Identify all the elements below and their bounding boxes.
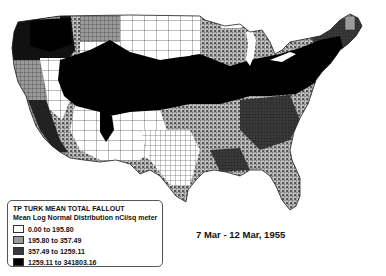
date-range-label: 7 Mar - 12 Mar, 1955: [196, 229, 285, 240]
legend-label: 0.00 to 195.80: [28, 226, 74, 233]
legend-label: 357.49 to 1259.11: [28, 248, 85, 255]
legend-label: 195.80 to 357.49: [28, 237, 81, 244]
legend-swatch: [13, 236, 24, 244]
legend-label: 1259.11 to 341803.16: [28, 259, 97, 266]
legend-item: 0.00 to 195.80: [13, 224, 157, 234]
lake-superior: [220, 18, 256, 28]
legend-swatch: [13, 247, 24, 255]
legend-title: TP TURK MEAN TOTAL FALLOUT: [13, 204, 157, 213]
legend-item: 195.80 to 357.49: [13, 235, 157, 245]
legend-swatch: [13, 225, 24, 233]
legend-item: 1259.11 to 341803.16: [13, 257, 157, 267]
map-legend: TP TURK MEAN TOTAL FALLOUT Mean Log Norm…: [7, 200, 163, 267]
legend-item: 357.49 to 1259.11: [13, 246, 157, 256]
legend-swatch: [13, 258, 24, 266]
legend-subtitle: Mean Log Normal Distribution nCi/sq mete…: [13, 213, 157, 223]
